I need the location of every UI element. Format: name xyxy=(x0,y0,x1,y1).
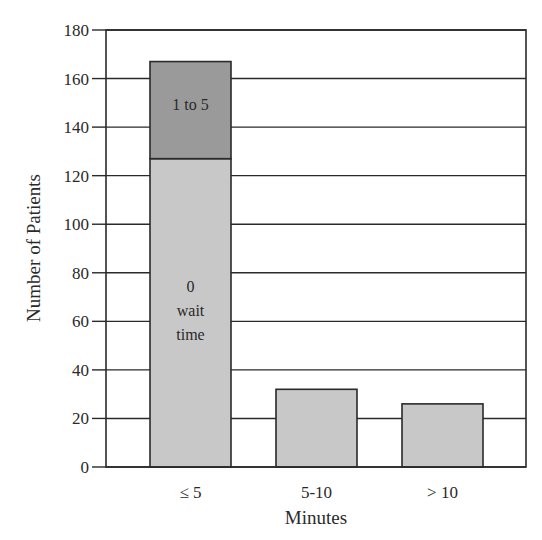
x-category-label: 5-10 xyxy=(301,483,332,502)
y-tick-label: 120 xyxy=(64,167,90,186)
x-axis-title: Minutes xyxy=(285,507,347,528)
segment-label-0-wait-time: 0 xyxy=(187,278,195,295)
bar-segment xyxy=(276,389,357,467)
y-tick-label: 140 xyxy=(64,118,90,137)
y-axis-ticks: 020406080100120140160180 xyxy=(64,21,107,477)
y-tick-label: 100 xyxy=(64,215,90,234)
x-category-label: ≤ 5 xyxy=(179,483,201,502)
y-tick-label: 0 xyxy=(81,458,90,477)
x-category-label: > 10 xyxy=(427,483,458,502)
bars: 1 to 50waittime xyxy=(150,62,483,467)
segment-label-1-to-5: 1 to 5 xyxy=(172,96,208,113)
y-tick-label: 40 xyxy=(72,361,89,380)
segment-label-0-wait-time: time xyxy=(176,326,204,343)
segment-label-0-wait-time: wait xyxy=(177,302,205,319)
y-tick-label: 20 xyxy=(72,409,89,428)
y-axis-title: Number of Patients xyxy=(23,174,44,322)
y-tick-label: 160 xyxy=(64,70,90,89)
stacked-bar-chart: 020406080100120140160180 1 to 50waittime… xyxy=(0,0,542,540)
y-tick-label: 60 xyxy=(72,312,89,331)
y-tick-label: 80 xyxy=(72,264,89,283)
x-axis-categories: ≤ 55-10> 10 xyxy=(179,483,457,502)
bar-segment xyxy=(402,404,483,467)
y-tick-label: 180 xyxy=(64,21,90,40)
